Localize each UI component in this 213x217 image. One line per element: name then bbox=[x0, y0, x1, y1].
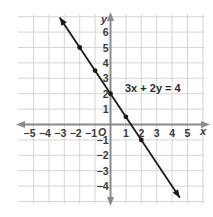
x-tick-label: −2 bbox=[70, 127, 82, 139]
x-tick-label: −3 bbox=[54, 127, 66, 139]
equation-label: 3x + 2y = 4 bbox=[125, 82, 182, 94]
x-tick-label: 1 bbox=[123, 127, 129, 139]
y-tick-label: −2 bbox=[97, 149, 109, 161]
y-tick-label: 5 bbox=[103, 42, 109, 54]
y-tick-label: 6 bbox=[103, 26, 109, 38]
data-point bbox=[124, 114, 129, 119]
x-tick-label: −4 bbox=[39, 127, 51, 139]
x-tick-label: 4 bbox=[169, 127, 175, 139]
line-end-arrow-icon bbox=[173, 189, 180, 197]
coordinate-plane: −5−4−3−2−112345654321−1−2−3−4 3x + 2y = … bbox=[0, 0, 213, 217]
x-axis-label: x bbox=[199, 125, 207, 137]
line-start-arrow-icon bbox=[60, 17, 67, 25]
y-tick-label: −3 bbox=[97, 165, 109, 177]
y-tick-label: −4 bbox=[97, 180, 109, 192]
origin-label: O bbox=[98, 126, 106, 138]
x-tick-label: 5 bbox=[185, 127, 191, 139]
data-point bbox=[108, 91, 113, 96]
x-tick-label: 3 bbox=[154, 127, 160, 139]
y-tick-label: 1 bbox=[103, 103, 109, 115]
data-point bbox=[93, 68, 98, 73]
y-tick-label: 4 bbox=[103, 57, 109, 69]
y-axis-label: y bbox=[100, 13, 108, 25]
x-tick-label: −1 bbox=[85, 127, 97, 139]
data-point bbox=[139, 138, 144, 143]
x-tick-label: −5 bbox=[24, 127, 36, 139]
data-point bbox=[77, 45, 82, 50]
